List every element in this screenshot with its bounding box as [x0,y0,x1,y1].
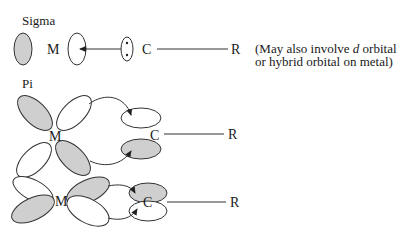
electron-dot-icon [126,42,128,44]
carbon-lone-pair-orbital [121,37,133,61]
pi-section: Pi M C R [11,76,238,183]
sigma-r-label: R [231,42,241,57]
pi-carbon-label: C [150,128,159,143]
metal-orbital-shaded-lobe [14,33,32,65]
sigma-carbon-label: C [142,42,151,57]
sigma-note-line2: or hybrid orbital on metal) [255,54,393,69]
sigma-metal-label: M [47,42,60,57]
pi-metal-label: M [49,129,62,144]
pi-alt-section: M C R [8,171,240,233]
pi-alt-carbon-label: C [143,195,152,210]
pi-alt-r-label: R [230,195,240,210]
pi-r-label: R [228,127,238,142]
sigma-title: Sigma [22,13,55,28]
carbon-p-lobe-open [121,108,161,128]
metal-carbon-bonding-diagram: Sigma M C R (May also involve d orbital … [0,0,403,233]
pi-alt-metal-label: M [55,194,68,209]
pi-title: Pi [22,76,33,91]
sigma-section: Sigma M C R (May also involve d orbital … [14,13,397,69]
electron-dot-icon [126,54,128,56]
